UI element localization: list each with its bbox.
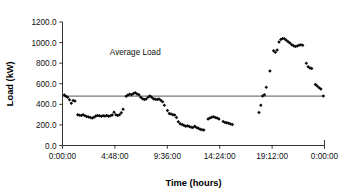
data-point-markers	[63, 37, 325, 132]
data-point	[265, 86, 269, 90]
x-tick-label: 0:00:00	[311, 152, 339, 161]
data-point	[166, 109, 170, 113]
y-tick-label: 200.0	[36, 121, 57, 130]
x-axis-title: Time (hours)	[165, 178, 221, 188]
x-tick-label: 9:36:00	[154, 152, 182, 161]
y-tick-label: 600.0	[36, 80, 57, 89]
data-point	[163, 104, 167, 108]
data-point	[268, 69, 272, 73]
y-axis-title: Load (kW)	[5, 61, 15, 106]
load-vs-time-scatter-chart: 0.0200.0400.0600.0800.01000.01200.0 0:00…	[0, 0, 347, 194]
chart-figure: 0.0200.0400.0600.0800.01000.01200.0 0:00…	[0, 0, 347, 194]
average-load-annotation: Average Load	[110, 48, 161, 57]
data-point	[259, 103, 263, 107]
data-point	[257, 111, 261, 115]
y-tick-label: 1200.0	[31, 18, 56, 27]
data-point	[277, 40, 281, 44]
y-tick-label: 1000.0	[31, 39, 56, 48]
data-point	[121, 108, 125, 112]
x-tick-label: 0:00:00	[49, 152, 77, 161]
x-axis-tick-labels: 0:00:004:48:009:36:0014:24:0019:12:000:0…	[49, 152, 339, 161]
y-tick-label: 400.0	[36, 100, 57, 109]
y-tick-label: 800.0	[36, 59, 57, 68]
plot-axes	[59, 22, 324, 149]
data-point	[175, 116, 179, 120]
x-tick-label: 4:48:00	[101, 152, 129, 161]
data-point	[305, 61, 309, 64]
x-tick-label: 19:12:00	[256, 152, 288, 161]
data-point	[68, 98, 72, 102]
y-axis-tick-labels: 0.0200.0400.0600.0800.01000.01200.0	[31, 18, 56, 151]
data-point	[70, 102, 74, 106]
data-point	[322, 94, 326, 98]
x-tick-label: 14:24:00	[204, 152, 236, 161]
y-tick-label: 0.0	[45, 142, 57, 151]
